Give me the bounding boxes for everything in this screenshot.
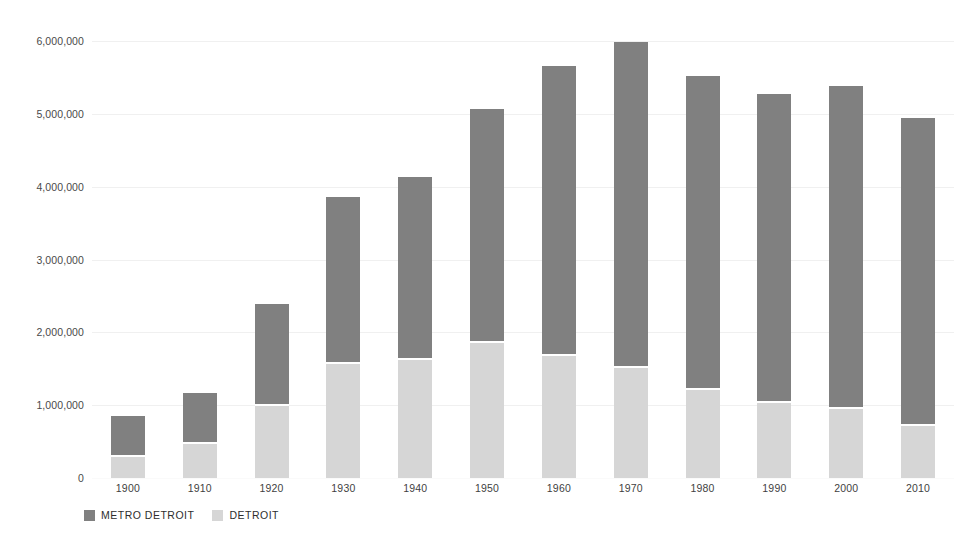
bar-segment-detroit-1960[interactable] <box>542 356 576 478</box>
bar-segment-detroit-1970[interactable] <box>614 368 648 478</box>
x-axis-tick-label-1900: 1900 <box>98 482 158 494</box>
y-axis-tick-label: 1,000,000 <box>4 399 84 411</box>
x-axis-tick-label-1950: 1950 <box>457 482 517 494</box>
bar-group-2000[interactable] <box>829 41 863 478</box>
gridline-0 <box>92 478 954 479</box>
bar-segment-metro-detroit-1950[interactable] <box>470 109 504 344</box>
legend-swatch-detroit <box>212 510 223 521</box>
x-axis-tick-label-2010: 2010 <box>888 482 948 494</box>
bar-segment-divider-1910 <box>183 442 217 444</box>
bar-segment-divider-2010 <box>901 424 935 426</box>
bar-segment-divider-1900 <box>111 455 145 457</box>
bar-segment-metro-detroit-1900[interactable] <box>111 416 145 458</box>
bar-segment-metro-detroit-1940[interactable] <box>398 177 432 360</box>
x-axis-tick-label-1990: 1990 <box>744 482 804 494</box>
plot-area <box>92 41 954 478</box>
bar-segment-divider-1990 <box>757 401 791 403</box>
bar-segment-metro-detroit-1970[interactable] <box>614 42 648 368</box>
legend-swatch-metro-detroit <box>84 510 95 521</box>
x-axis-tick-label-2000: 2000 <box>816 482 876 494</box>
bar-segment-metro-detroit-2000[interactable] <box>829 86 863 409</box>
bar-segment-divider-2000 <box>829 407 863 409</box>
bar-segment-metro-detroit-1990[interactable] <box>757 94 791 403</box>
bar-group-1980[interactable] <box>686 41 720 478</box>
x-axis-tick-label-1940: 1940 <box>385 482 445 494</box>
bar-group-1970[interactable] <box>614 41 648 478</box>
y-axis: 01,000,0002,000,0003,000,0004,000,0005,0… <box>0 41 84 478</box>
bar-group-1940[interactable] <box>398 41 432 478</box>
bar-group-1920[interactable] <box>255 41 289 478</box>
bar-segment-metro-detroit-1910[interactable] <box>183 393 217 444</box>
bar-segment-divider-1960 <box>542 354 576 356</box>
bar-group-1960[interactable] <box>542 41 576 478</box>
x-axis-tick-label-1970: 1970 <box>601 482 661 494</box>
population-stacked-bar-chart: 01,000,0002,000,0003,000,0004,000,0005,0… <box>0 0 974 537</box>
bar-segment-detroit-1920[interactable] <box>255 406 289 478</box>
bar-segment-detroit-1910[interactable] <box>183 444 217 478</box>
bar-segment-detroit-1980[interactable] <box>686 390 720 478</box>
bar-segment-divider-1930 <box>326 362 360 364</box>
bar-group-1950[interactable] <box>470 41 504 478</box>
bar-segment-detroit-1930[interactable] <box>326 364 360 478</box>
y-axis-tick-label: 0 <box>4 472 84 484</box>
bar-group-1990[interactable] <box>757 41 791 478</box>
bar-group-1930[interactable] <box>326 41 360 478</box>
bar-segment-detroit-1950[interactable] <box>470 343 504 478</box>
bar-segment-divider-1980 <box>686 388 720 390</box>
legend-item-metro-detroit[interactable]: METRO DETROIT <box>84 509 194 521</box>
bar-segment-divider-1920 <box>255 404 289 406</box>
x-axis-tick-label-1980: 1980 <box>673 482 733 494</box>
bar-group-2010[interactable] <box>901 41 935 478</box>
bar-segment-detroit-1900[interactable] <box>111 457 145 478</box>
y-axis-tick-label: 5,000,000 <box>4 108 84 120</box>
bar-segment-metro-detroit-1980[interactable] <box>686 76 720 391</box>
legend-item-detroit[interactable]: DETROIT <box>212 509 279 521</box>
x-axis-tick-label-1910: 1910 <box>170 482 230 494</box>
y-axis-tick-label: 2,000,000 <box>4 326 84 338</box>
bar-segment-metro-detroit-2010[interactable] <box>901 118 935 426</box>
bar-segment-detroit-2000[interactable] <box>829 409 863 478</box>
x-axis-tick-label-1920: 1920 <box>242 482 302 494</box>
bar-segment-metro-detroit-1930[interactable] <box>326 197 360 364</box>
bar-segment-detroit-2010[interactable] <box>901 426 935 478</box>
legend-label: METRO DETROIT <box>101 509 194 521</box>
x-axis-tick-label-1960: 1960 <box>529 482 589 494</box>
bar-segment-divider-1950 <box>470 341 504 343</box>
y-axis-tick-label: 3,000,000 <box>4 254 84 266</box>
bar-group-1910[interactable] <box>183 41 217 478</box>
bar-segment-divider-1940 <box>398 358 432 360</box>
bar-segment-metro-detroit-1960[interactable] <box>542 66 576 357</box>
x-axis: 1900191019201930194019501960197019801990… <box>92 482 954 500</box>
bar-segment-divider-1970 <box>614 366 648 368</box>
bar-segment-detroit-1940[interactable] <box>398 360 432 478</box>
bar-segment-metro-detroit-1920[interactable] <box>255 304 289 405</box>
bar-group-1900[interactable] <box>111 41 145 478</box>
legend-label: DETROIT <box>229 509 279 521</box>
chart-legend: METRO DETROITDETROIT <box>84 509 279 521</box>
x-axis-tick-label-1930: 1930 <box>313 482 373 494</box>
y-axis-tick-label: 4,000,000 <box>4 181 84 193</box>
y-axis-tick-label: 6,000,000 <box>4 35 84 47</box>
bar-segment-detroit-1990[interactable] <box>757 403 791 478</box>
bars-layer <box>92 41 954 478</box>
